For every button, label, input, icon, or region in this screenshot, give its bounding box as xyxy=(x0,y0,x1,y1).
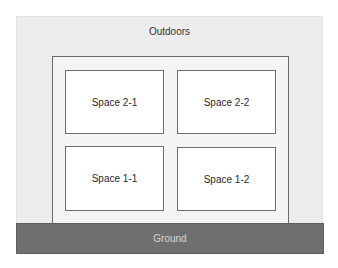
room-label: Space 1-1 xyxy=(92,173,138,184)
room-label: Space 1-2 xyxy=(204,174,250,185)
ground-label: Ground xyxy=(153,233,186,244)
room-space-1-1: Space 1-1 xyxy=(65,146,164,211)
outdoors-label: Outdoors xyxy=(16,26,323,37)
room-space-1-2: Space 1-2 xyxy=(177,147,276,211)
ground-region: Ground xyxy=(16,223,324,254)
room-label: Space 2-1 xyxy=(92,97,138,108)
room-space-2-1: Space 2-1 xyxy=(65,70,164,134)
room-space-2-2: Space 2-2 xyxy=(177,70,276,134)
room-label: Space 2-2 xyxy=(204,97,250,108)
